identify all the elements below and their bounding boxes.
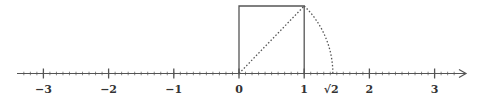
tick-label: 3 xyxy=(431,83,439,96)
tick-label: √2 xyxy=(324,83,339,96)
tick-label: 1 xyxy=(300,83,308,96)
construction-shapes xyxy=(239,6,333,74)
compass-arc xyxy=(304,6,333,74)
tick-label: −1 xyxy=(165,83,182,96)
tick-label: −2 xyxy=(100,83,117,96)
tick-label: −3 xyxy=(35,83,52,96)
tick-label: 0 xyxy=(235,83,243,96)
number-line-diagram: −3−2−101√223 xyxy=(0,0,482,99)
tick-labels: −3−2−101√223 xyxy=(35,83,438,96)
diagonal-line xyxy=(239,6,304,74)
tick-label: 2 xyxy=(366,83,374,96)
